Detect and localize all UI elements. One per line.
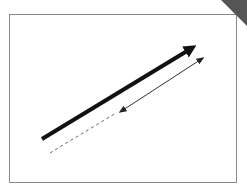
arrow-diagram xyxy=(0,0,247,192)
dashed-extension xyxy=(50,113,116,153)
diagram-canvas xyxy=(0,0,247,192)
thick-arrow xyxy=(42,48,192,139)
